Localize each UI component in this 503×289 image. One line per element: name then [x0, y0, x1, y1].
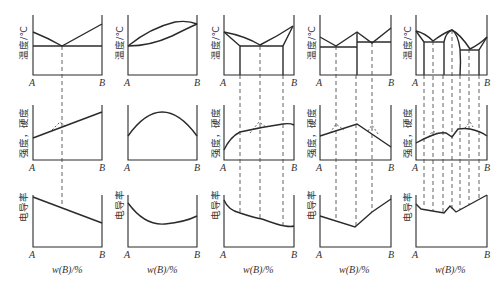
tick-a: A	[219, 162, 227, 173]
panel-1-temperature-plot: 温度/℃ A B	[18, 15, 105, 88]
panel-1: 温度/℃ A B 强度，硬度 A B 电导率 A B w(B)/%	[18, 15, 105, 276]
tick-b: B	[291, 249, 297, 260]
panel-4: 温度/℃ A B 强度，硬度 A B 电导率 A B w(B)/%	[306, 15, 394, 276]
ylabel: 强度，硬度	[18, 108, 29, 158]
tick-b: B	[484, 162, 490, 173]
tick-a: A	[315, 162, 323, 173]
panel-4-conductivity-plot: 电导率 A B	[306, 190, 394, 260]
xlabel: w(B)/%	[243, 264, 274, 276]
tick-a: A	[28, 162, 36, 173]
panel-4-temperature-plot: 温度/℃ A B	[306, 15, 394, 88]
panel-3-temperature-plot: 温度/℃ A B	[210, 15, 297, 88]
panel-5-strength-plot: 强度，硬度 A B	[402, 105, 490, 173]
tick-b: B	[99, 162, 105, 173]
tick-b: B	[194, 77, 200, 88]
tick-b: B	[291, 162, 297, 173]
tick-a: A	[28, 249, 36, 260]
ylabel: 强度，硬度	[402, 108, 413, 158]
tick-b: B	[99, 249, 105, 260]
ylabel: 温度/℃	[306, 26, 317, 60]
xlabel: w(B)/%	[435, 264, 466, 276]
tick-a: A	[28, 77, 36, 88]
tick-b: B	[484, 249, 490, 260]
ylabel: 温度/℃	[402, 26, 413, 60]
tick-a: A	[411, 162, 419, 173]
tick-b: B	[194, 249, 200, 260]
panel-5-temperature-plot: 温度/℃ A B	[402, 15, 490, 88]
panel-1-strength-plot: 强度，硬度 A B	[18, 105, 105, 173]
tick-a: A	[315, 249, 323, 260]
tick-b: B	[194, 162, 200, 173]
tick-b: B	[484, 77, 490, 88]
xlabel: w(B)/%	[147, 264, 178, 276]
tick-b: B	[388, 77, 394, 88]
ylabel: 电导率	[18, 192, 29, 222]
ylabel: 温度/℃	[210, 26, 221, 60]
panel-2-conductivity-plot: 电导率 A B	[114, 190, 200, 260]
tick-a: A	[411, 77, 419, 88]
panel-3: 温度/℃ A B 强度，硬度 A B 电导率 A B w(B)/%	[210, 15, 297, 276]
panel-5-conductivity-plot: 电导率 A B	[402, 192, 490, 260]
ylabel: 电导率	[114, 190, 125, 220]
tick-b: B	[99, 77, 105, 88]
tick-a: A	[411, 249, 419, 260]
phase-diagram-property-figure: 温度/℃ A B 强度，硬度 A B 电导率 A B w(B)/%	[0, 0, 503, 289]
ylabel: 强度，硬度	[306, 108, 317, 158]
panel-2: 温度/℃ A B A B 电导率 A B w(B)/%	[114, 15, 200, 276]
panel-2-strength-plot: A B	[123, 105, 200, 173]
tick-a: A	[123, 162, 131, 173]
ylabel: 电导率	[402, 192, 413, 222]
panel-2-temperature-plot: 温度/℃ A B	[114, 15, 200, 88]
ylabel: 温度/℃	[18, 26, 29, 60]
panel-3-strength-plot: 强度，硬度 A B	[210, 105, 297, 173]
tick-b: B	[388, 162, 394, 173]
tick-a: A	[315, 77, 323, 88]
tick-a: A	[219, 77, 227, 88]
panel-1-conductivity-plot: 电导率 A B	[18, 192, 105, 260]
ylabel: 电导率	[306, 190, 317, 220]
ylabel: 电导率	[210, 190, 221, 220]
panel-4-strength-plot: 强度，硬度 A B	[306, 105, 394, 173]
panel-3-conductivity-plot: 电导率 A B	[210, 190, 297, 260]
ylabel: 温度/℃	[114, 26, 125, 60]
tick-a: A	[219, 249, 227, 260]
tick-a: A	[123, 77, 131, 88]
tick-b: B	[388, 249, 394, 260]
xlabel: w(B)/%	[339, 264, 370, 276]
tick-a: A	[123, 249, 131, 260]
tick-b: B	[291, 77, 297, 88]
panel-5: 温度/℃ A B 强度，硬度 A B 电导率 A B w(B)/%	[402, 15, 490, 276]
ylabel: 强度，硬度	[210, 108, 221, 158]
xlabel: w(B)/%	[52, 264, 83, 276]
